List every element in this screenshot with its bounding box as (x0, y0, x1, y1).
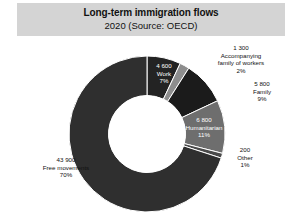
slice-value-work: 4 600 (142, 62, 186, 70)
slice-category-free-movements: Free movements (22, 164, 110, 172)
slice-label-humanitarian: 6 800 Humanitarian 11% (171, 116, 237, 139)
slice-value-family: 5 800 (236, 80, 288, 88)
chart-plot-area: 4 600 Work 7% 1 300 Accompanying family … (0, 36, 299, 223)
page-title: Long-term immigration flows (17, 6, 285, 19)
slice-percent-accompanying: 2% (196, 67, 286, 75)
slice-percent-other: 1% (220, 161, 270, 169)
slice-percent-humanitarian: 11% (171, 131, 237, 139)
slice-category-work: Work (142, 70, 186, 78)
chart-title-band: Long-term immigration flows 2020 (Source… (17, 3, 285, 36)
slice-value-accompanying: 1 300 (196, 44, 286, 52)
slice-category-accompanying-line1: Accompanying (196, 52, 286, 60)
slice-percent-family: 9% (236, 95, 288, 103)
slice-category-humanitarian: Humanitarian (171, 124, 237, 132)
slice-value-humanitarian: 6 800 (171, 116, 237, 124)
slice-value-other: 200 (220, 146, 270, 154)
slice-label-work: 4 600 Work 7% (142, 62, 186, 85)
slice-percent-work: 7% (142, 77, 186, 85)
slice-category-family: Family (236, 88, 288, 96)
slice-value-free-movements: 43 900 (22, 156, 110, 164)
slice-label-other: 200 Other 1% (220, 146, 270, 169)
chart-subtitle: 2020 (Source: OECD) (17, 19, 285, 32)
slice-label-family: 5 800 Family 9% (236, 80, 288, 103)
slice-percent-free-movements: 70% (22, 171, 110, 179)
slice-label-free-movements: 43 900 Free movements 70% (22, 156, 110, 179)
slice-category-other: Other (220, 154, 270, 162)
slice-label-accompanying-family-of-workers: 1 300 Accompanying family of workers 2% (196, 44, 286, 74)
slice-category-accompanying-line2: family of workers (196, 59, 286, 67)
